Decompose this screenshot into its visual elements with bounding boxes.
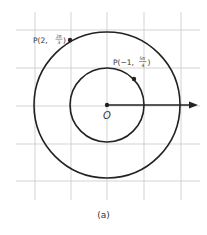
origin-dot	[105, 103, 109, 107]
svg-text:): )	[63, 36, 66, 45]
point-p1-dot	[68, 38, 72, 42]
point-p2-dot	[132, 77, 136, 81]
arrow-head-icon	[189, 102, 198, 109]
point-p1-label: P(2, 2π 3 )	[33, 34, 66, 46]
svg-text:): )	[148, 58, 151, 67]
svg-text:P(−1,: P(−1,	[113, 58, 134, 67]
svg-text:5π: 5π	[140, 56, 146, 61]
origin-label: O	[103, 110, 111, 121]
svg-text:3: 3	[58, 40, 61, 45]
point-p2-label: P(−1, 5π 4 )	[113, 56, 151, 68]
polar-diagram: O P(2, 2π 3 ) P(−1, 5π 4 )	[0, 0, 207, 235]
svg-text:P(2,: P(2,	[33, 36, 48, 45]
svg-text:4: 4	[142, 63, 145, 68]
figure-caption: (a)	[0, 210, 207, 220]
svg-text:2π: 2π	[56, 34, 62, 39]
